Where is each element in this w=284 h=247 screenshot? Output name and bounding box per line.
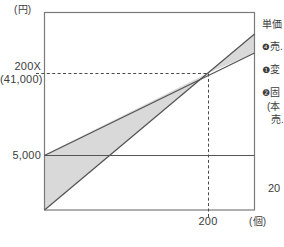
legend-item-sales: ❹売. xyxy=(262,40,284,54)
y-tick-breakeven-primary: 200X xyxy=(5,60,41,72)
legend-subline-1: (本 xyxy=(262,100,284,113)
y-axis-unit-label: (円) xyxy=(14,4,31,16)
x-tick-breakeven-quantity: 200 xyxy=(192,215,224,227)
legend-item-variable: ❶変 xyxy=(262,63,284,77)
legend-marker-4: ❹ xyxy=(262,42,270,52)
y-tick-fixed-cost: 5,000 xyxy=(4,149,41,161)
legend-item-fixed: ❷固 xyxy=(262,86,284,100)
legend-unit-price: 単価 : xyxy=(262,18,284,31)
breakeven-chart-graphic xyxy=(0,0,284,247)
y-tick-breakeven-secondary: (41,000) xyxy=(0,73,41,85)
sales-revenue-line xyxy=(45,34,255,210)
legend-text-sales: 売. xyxy=(270,41,283,52)
legend-marker-1: ❶ xyxy=(262,65,270,75)
legend-trailing-number: 20 xyxy=(268,182,280,194)
x-axis-unit-label: (個) xyxy=(249,216,266,228)
chart-canvas: (円) 200X (41,000) 5,000 200 (個) 単価 : ❹売.… xyxy=(0,0,284,247)
legend-text-fixed: 固 xyxy=(270,87,280,98)
legend-marker-2: ❷ xyxy=(262,88,270,98)
legend-subline-2: 売. xyxy=(262,113,284,126)
legend-panel: 単価 : ❹売. ❶変 ❷固 (本 売. xyxy=(262,18,284,126)
legend-text-variable: 変 xyxy=(270,64,280,75)
total-cost-line xyxy=(45,53,255,156)
